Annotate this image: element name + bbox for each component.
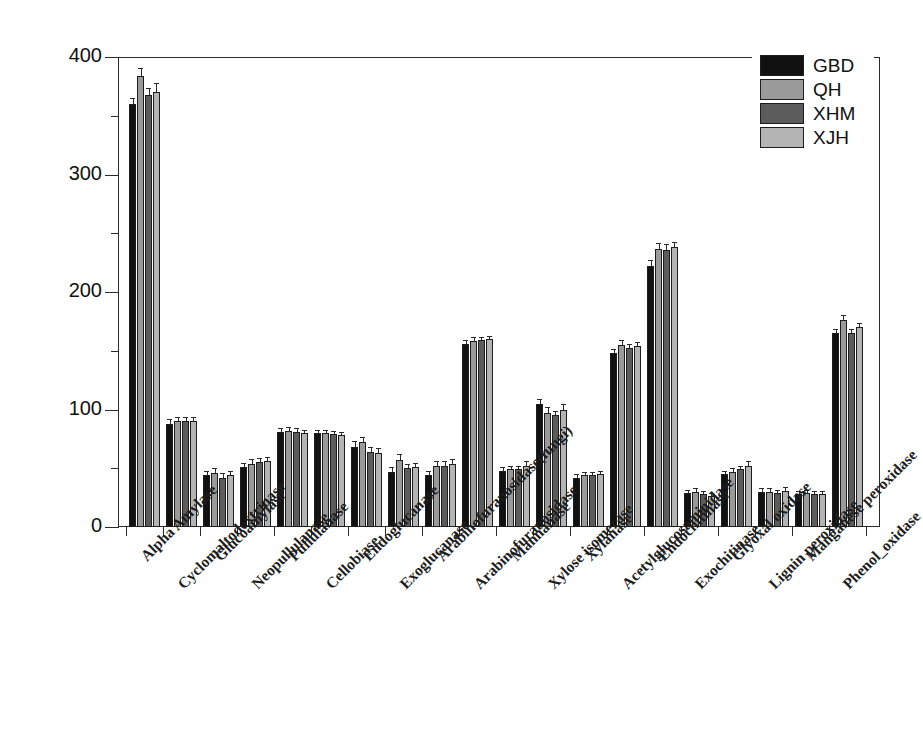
legend-label: GBD — [813, 56, 854, 75]
bar-xjh-12[interactable] — [597, 474, 604, 527]
error-bar — [193, 418, 194, 422]
error-bar — [178, 418, 179, 422]
error-bar — [748, 462, 749, 466]
y-tick-label: 100 — [44, 397, 102, 420]
error-bar-cap — [767, 488, 772, 489]
legend-item-xjh[interactable]: XJH — [760, 125, 868, 149]
error-bar — [149, 89, 150, 95]
bar-gbd-6[interactable] — [351, 447, 358, 527]
bar-xhm-14[interactable] — [663, 250, 670, 527]
error-bar-cap — [294, 428, 299, 429]
error-bar — [600, 472, 601, 474]
bar-xhm-4[interactable] — [293, 432, 300, 527]
bar-group — [351, 57, 382, 527]
error-bar-cap — [463, 340, 468, 341]
bar-gbd-0[interactable] — [129, 104, 136, 527]
error-bar — [563, 405, 564, 410]
bar-qh-6[interactable] — [359, 442, 366, 527]
bar-group — [425, 57, 456, 527]
bar-gbd-14[interactable] — [647, 266, 654, 527]
bar-xhm-12[interactable] — [589, 475, 596, 527]
x-tick — [792, 527, 793, 536]
error-bar-cap — [368, 447, 373, 448]
error-bar — [466, 341, 467, 343]
error-bar — [585, 473, 586, 475]
bar-xhm-6[interactable] — [367, 452, 374, 527]
error-bar-cap — [574, 474, 579, 475]
x-tick — [644, 527, 645, 536]
bar-qh-0[interactable] — [137, 76, 144, 527]
error-bar-cap — [323, 430, 328, 431]
error-bar-cap — [212, 468, 217, 469]
error-bar-cap — [648, 260, 653, 261]
error-bar-cap — [241, 463, 246, 464]
error-bar — [740, 467, 741, 469]
bar-xhm-2[interactable] — [219, 478, 226, 527]
bar-qh-4[interactable] — [285, 431, 292, 527]
x-tick — [274, 527, 275, 536]
bar-group — [573, 57, 604, 527]
error-bar — [489, 337, 490, 339]
error-bar-cap — [849, 329, 854, 330]
error-bar — [770, 489, 771, 491]
error-bar — [629, 345, 630, 349]
bar-qh-14[interactable] — [655, 249, 662, 527]
legend-item-xhm[interactable]: XHM — [760, 101, 868, 125]
error-bar — [577, 475, 578, 477]
error-bar — [762, 489, 763, 491]
error-bar — [637, 343, 638, 347]
bar-group — [610, 57, 641, 527]
error-bar — [843, 316, 844, 321]
error-bar-cap — [471, 337, 476, 338]
bar-gbd-13[interactable] — [610, 353, 617, 527]
legend-item-qh[interactable]: QH — [760, 77, 868, 101]
bar-xjh-8[interactable] — [449, 464, 456, 527]
bar-qh-19[interactable] — [840, 320, 847, 527]
bar-xjh-13[interactable] — [634, 346, 641, 527]
legend-item-gbd[interactable]: GBD — [760, 53, 868, 77]
bar-xhm-16[interactable] — [737, 469, 744, 527]
x-tick — [200, 527, 201, 536]
error-bar — [481, 338, 482, 340]
bar-gbd-19[interactable] — [832, 333, 839, 527]
bar-gbd-9[interactable] — [462, 344, 469, 527]
figure-bar-chart: Normalized signal intensity 010020030040… — [0, 0, 923, 747]
error-bar — [341, 433, 342, 435]
bar-xhm-18[interactable] — [811, 494, 818, 527]
error-bar — [289, 428, 290, 430]
error-bar-cap — [405, 464, 410, 465]
error-bar-cap — [434, 461, 439, 462]
error-bar-cap — [783, 487, 788, 488]
bar-xjh-6[interactable] — [375, 453, 382, 527]
error-bar-cap — [746, 461, 751, 462]
error-bar-cap — [315, 430, 320, 431]
error-bar-cap — [479, 337, 484, 338]
error-bar — [186, 418, 187, 422]
error-bar-cap — [389, 467, 394, 468]
bar-xjh-0[interactable] — [153, 92, 160, 527]
bar-gbd-12[interactable] — [573, 478, 580, 527]
bar-qh-12[interactable] — [581, 475, 588, 527]
error-bar — [215, 469, 216, 473]
bar-xjh-4[interactable] — [301, 433, 308, 527]
error-bar-cap — [450, 459, 455, 460]
bar-xhm-0[interactable] — [145, 95, 152, 527]
error-bar — [363, 438, 364, 443]
error-bar — [400, 455, 401, 460]
error-bar-cap — [590, 472, 595, 473]
bar-xjh-16[interactable] — [745, 466, 752, 527]
error-bar — [156, 84, 157, 92]
error-bar — [415, 464, 416, 468]
error-bar — [814, 492, 815, 494]
bar-xhm-13[interactable] — [626, 348, 633, 527]
error-bar — [281, 429, 282, 431]
bar-gbd-1[interactable] — [166, 424, 173, 527]
error-bar — [785, 488, 786, 490]
bar-xjh-14[interactable] — [671, 247, 678, 527]
x-tick — [496, 527, 497, 536]
error-bar — [445, 462, 446, 466]
error-bar — [141, 69, 142, 76]
bar-qh-9[interactable] — [470, 341, 477, 527]
bar-xhm-8[interactable] — [441, 466, 448, 527]
error-bar-cap — [664, 244, 669, 245]
